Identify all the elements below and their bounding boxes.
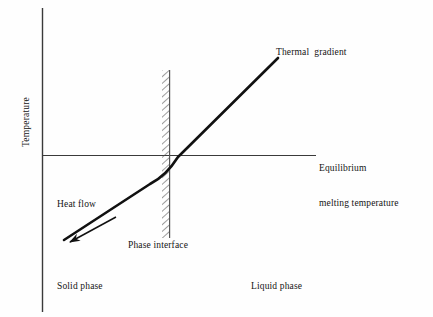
equilibrium-temperature-label: Equilibrium melting temperature	[319, 140, 399, 232]
thermal-gradient-diagram: Temperature Thermal gradient Equilibrium…	[0, 0, 433, 317]
equilibrium-label-line-1: Equilibrium	[319, 163, 399, 175]
thermal-gradient-curve	[64, 58, 278, 240]
y-axis-label: Temperature	[21, 85, 31, 159]
phase-interface-label: Phase interface	[128, 240, 188, 252]
equilibrium-label-line-2: melting temperature	[319, 198, 399, 210]
phase-interface-band	[162, 70, 170, 238]
solid-phase-label: Solid phase	[57, 281, 103, 293]
thermal-gradient-label: Thermal gradient	[276, 47, 347, 59]
liquid-phase-label: Liquid phase	[251, 281, 302, 293]
heat-flow-label: Heat flow	[57, 199, 96, 211]
